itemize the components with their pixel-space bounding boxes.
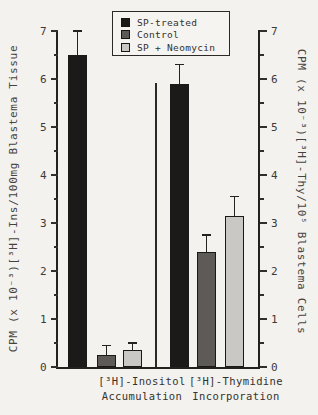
y-tick-left — [54, 294, 58, 296]
y-tick-right — [260, 174, 267, 176]
y-tick-left — [51, 270, 58, 272]
bar-sp-neomycin-group1 — [225, 216, 244, 367]
y-tick-label-right: 1 — [271, 313, 295, 326]
y-tick-left — [51, 366, 58, 368]
y-tick-right — [260, 318, 267, 320]
error-bar-stem-sp-treated-group1 — [179, 65, 181, 84]
y-tick-label-left: 1 — [19, 313, 47, 326]
y-tick-left — [54, 150, 58, 152]
error-bar-cap-sp-neomycin-group1 — [230, 196, 239, 198]
error-bar-cap-control-group0 — [102, 345, 111, 347]
right-y-axis-title: CPM (x 10⁻³)[³H]-Thy/10⁵ Blastema Cells — [295, 0, 308, 392]
error-bar-stem-sp-treated-group0 — [77, 31, 79, 55]
legend-box: SP-treatedControlSP + Neomycin — [112, 11, 230, 56]
x-axis-baseline — [56, 367, 260, 369]
error-bar-cap-control-group1 — [202, 234, 211, 236]
error-bar-stem-sp-neomycin-group0 — [132, 343, 134, 350]
y-tick-label-right: 2 — [271, 265, 295, 278]
y-tick-right — [260, 366, 267, 368]
y-tick-left — [54, 102, 58, 104]
legend-label-control: Control — [137, 29, 179, 40]
y-tick-right — [260, 30, 267, 32]
y-tick-label-right: 0 — [271, 361, 295, 374]
y-tick-right — [260, 126, 267, 128]
y-tick-label-right: 4 — [271, 169, 295, 182]
y-tick-label-right: 3 — [271, 217, 295, 230]
left-y-axis-title: CPM (x 10⁻³)[³H]-Ins/100mg Blastema Tiss… — [7, 0, 20, 399]
y-tick-right — [260, 246, 264, 248]
bar-control-group1 — [197, 252, 216, 367]
error-bar-stem-control-group0 — [106, 345, 108, 355]
legend-item-sp-treated: SP-treated — [121, 16, 225, 29]
bar-control-group0 — [97, 355, 116, 367]
y-tick-label-left: 6 — [19, 73, 47, 86]
y-tick-left — [51, 318, 58, 320]
bar-sp-treated-group0 — [68, 55, 87, 367]
y-tick-label-right: 7 — [271, 25, 295, 38]
y-tick-label-left: 2 — [19, 265, 47, 278]
y-tick-left — [51, 126, 58, 128]
y-tick-left — [54, 54, 58, 56]
legend-item-sp-neomycin: SP + Neomycin — [121, 41, 225, 54]
error-bar-cap-sp-treated-group0 — [73, 30, 82, 32]
bar-sp-neomycin-group0 — [123, 350, 142, 367]
bar-sp-treated-group1 — [170, 84, 189, 367]
error-bar-cap-sp-neomycin-group0 — [128, 342, 137, 344]
x-category-thymidine: [³H]-Thymidine Incorporation — [171, 374, 301, 404]
y-tick-left — [51, 78, 58, 80]
bar-chart-figure: SP-treatedControlSP + Neomycin CPM (x 10… — [0, 0, 318, 415]
y-tick-right — [260, 78, 267, 80]
legend-label-sp-neomycin: SP + Neomycin — [137, 42, 215, 53]
x-category-line: Incorporation — [171, 389, 301, 404]
y-tick-left — [51, 30, 58, 32]
control-swatch-icon — [121, 30, 130, 39]
y-tick-label-left: 3 — [19, 217, 47, 230]
sp-treated-swatch-icon — [121, 18, 130, 27]
y-tick-label-left: 5 — [19, 121, 47, 134]
legend-item-control: Control — [121, 29, 225, 42]
y-tick-left — [54, 342, 58, 344]
y-tick-label-left: 7 — [19, 25, 47, 38]
y-tick-left — [51, 222, 58, 224]
y-tick-right — [260, 150, 264, 152]
y-tick-right — [260, 222, 267, 224]
y-tick-right — [260, 294, 264, 296]
y-tick-right — [260, 342, 264, 344]
x-category-line: [³H]-Thymidine — [171, 374, 301, 389]
y-tick-right — [260, 102, 264, 104]
legend-label-sp-treated: SP-treated — [137, 17, 197, 28]
group-divider-line — [155, 83, 157, 367]
error-bar-stem-sp-neomycin-group1 — [234, 197, 236, 216]
y-tick-right — [260, 198, 264, 200]
y-tick-right — [260, 54, 264, 56]
y-tick-label-left: 0 — [19, 361, 47, 374]
y-tick-right — [260, 270, 267, 272]
y-tick-left — [51, 174, 58, 176]
y-tick-left — [54, 198, 58, 200]
error-bar-stem-control-group1 — [206, 235, 208, 252]
error-bar-cap-sp-treated-group1 — [175, 64, 184, 66]
y-tick-label-right: 5 — [271, 121, 295, 134]
sp-neomycin-swatch-icon — [121, 43, 130, 52]
y-tick-left — [54, 246, 58, 248]
y-tick-label-left: 4 — [19, 169, 47, 182]
y-tick-label-right: 6 — [271, 73, 295, 86]
